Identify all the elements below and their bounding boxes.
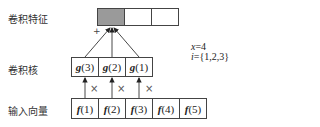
multiply-operator-2: × [117, 83, 125, 94]
arrow-g1-to-feature [114, 28, 139, 57]
kernel-cell-g1: g(1) [125, 57, 153, 77]
kernel-cell-g2: g(2) [98, 57, 126, 77]
annotation: x=4 i={1,2,3} [191, 42, 229, 62]
feature-cell-2 [124, 8, 152, 26]
sum-operator: + [93, 26, 101, 36]
input-cell-f2: f(2) [98, 98, 126, 119]
input-cell-f5: f(5) [179, 98, 207, 119]
input-cell-f3: f(3) [125, 98, 153, 119]
kernel-cell-g3: g(3) [71, 57, 99, 77]
feature-row [97, 8, 179, 26]
input-row: f(1) f(2) f(3) f(4) f(5) [71, 98, 207, 119]
input-cell-f1: f(1) [71, 98, 99, 119]
feature-cell-3 [151, 8, 179, 26]
kernel-row: g(3) g(2) g(1) [71, 57, 153, 77]
input-cell-f4: f(4) [152, 98, 180, 119]
feature-cell-1-highlighted [97, 8, 125, 26]
multiply-operator-3: × [145, 83, 153, 94]
annotation-line-i: i={1,2,3} [191, 52, 229, 62]
multiply-operator-1: × [90, 83, 98, 94]
